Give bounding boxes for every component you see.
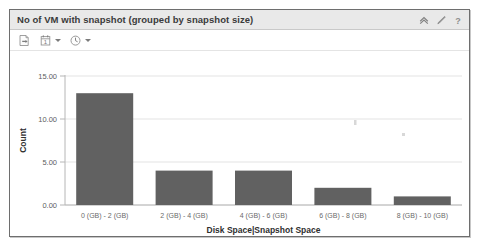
- panel-header: No of VM with snapshot (grouped by snaps…: [10, 10, 469, 30]
- x-tick-label: 8 (GB) - 10 (GB): [397, 212, 448, 220]
- y-tick-label: 10.00: [38, 115, 57, 124]
- y-tick-label: 15.00: [38, 72, 57, 81]
- bar[interactable]: [394, 196, 451, 205]
- svg-text:?: ?: [455, 15, 461, 25]
- chart-panel: No of VM with snapshot (grouped by snaps…: [9, 9, 470, 237]
- bar-chart: 0.005.0010.0015.000 (GB) - 2 (GB)2 (GB) …: [10, 51, 469, 236]
- x-tick-label: 6 (GB) - 8 (GB): [319, 212, 366, 220]
- page-export-icon: [18, 34, 31, 47]
- clock-icon: [69, 34, 82, 47]
- chevron-down-icon: [85, 39, 91, 42]
- collapse-icon[interactable]: [419, 15, 429, 26]
- x-tick-label: 2 (GB) - 4 (GB): [160, 212, 207, 220]
- scan-speck: [402, 133, 405, 136]
- calendar-icon: 1: [39, 34, 52, 47]
- export-button[interactable]: [16, 33, 33, 48]
- y-tick-label: 0.00: [42, 201, 57, 210]
- chart-toolbar: 1: [10, 30, 469, 51]
- edit-icon[interactable]: [436, 15, 446, 26]
- bar[interactable]: [156, 171, 213, 205]
- chart-area: 0.005.0010.0015.000 (GB) - 2 (GB)2 (GB) …: [10, 51, 469, 236]
- panel-header-tools: ?: [419, 10, 463, 30]
- bar[interactable]: [314, 188, 371, 205]
- date-range-button[interactable]: 1: [37, 33, 63, 48]
- page-title: No of VM with snapshot (grouped by snaps…: [10, 14, 253, 25]
- time-range-button[interactable]: [67, 33, 93, 48]
- y-tick-label: 5.00: [42, 158, 57, 167]
- bar[interactable]: [76, 93, 133, 205]
- chevron-down-icon: [55, 39, 61, 42]
- y-axis-title: Count: [18, 128, 28, 153]
- x-tick-label: 4 (GB) - 6 (GB): [240, 212, 287, 220]
- help-icon[interactable]: ?: [453, 15, 463, 26]
- x-axis-title: Disk Space|Snapshot Space: [207, 225, 321, 235]
- bar[interactable]: [235, 171, 292, 205]
- scan-speck: [354, 120, 357, 125]
- x-tick-label: 0 (GB) - 2 (GB): [81, 212, 128, 220]
